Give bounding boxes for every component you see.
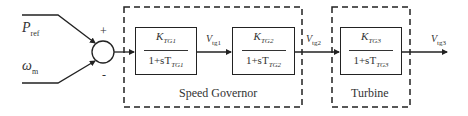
den-subscript: TG3 — [376, 61, 388, 69]
summing-junction — [92, 41, 114, 63]
pref-symbol: P — [22, 20, 31, 35]
den-subscript: TG2 — [269, 61, 281, 69]
den-text: 1+sT — [353, 54, 376, 66]
signal-label-vtg2: Vtg2 — [306, 33, 321, 47]
input-label-pref: Pref — [22, 20, 39, 38]
input-label-omega: ωm — [22, 58, 38, 76]
block-denominator: 1+sTTG2 — [246, 54, 281, 72]
transfer-block-tg1: KTG1 1+sTTG1 — [135, 27, 197, 75]
den-text: 1+sT — [148, 54, 171, 66]
pref-subscript: ref — [31, 29, 40, 38]
gain-symbol: K — [254, 30, 261, 42]
minus-sign: - — [102, 68, 106, 83]
gain-subscript: TG2 — [261, 37, 273, 45]
fraction-bar — [349, 50, 393, 51]
den-subscript: TG1 — [171, 61, 183, 69]
signal-subscript: tg1 — [212, 39, 221, 47]
omega-subscript: m — [32, 67, 38, 76]
group-caption-speed-governor: Speed Governor — [179, 86, 257, 101]
block-numerator: KTG3 — [361, 30, 381, 48]
signal-subscript: tg3 — [437, 39, 446, 47]
group-caption-turbine: Turbine — [351, 86, 389, 101]
signal-label-vtg3: Vtg3 — [431, 33, 446, 47]
gain-subscript: TG3 — [368, 37, 380, 45]
fraction-bar — [144, 50, 188, 51]
den-text: 1+sT — [246, 54, 269, 66]
plus-sign: + — [100, 24, 107, 39]
transfer-block-tg3: KTG3 1+sTTG3 — [340, 27, 402, 75]
block-denominator: 1+sTTG1 — [148, 54, 183, 72]
signal-label-vtg1: Vtg1 — [206, 33, 221, 47]
block-denominator: 1+sTTG3 — [353, 54, 388, 72]
omega-symbol: ω — [22, 58, 32, 73]
transfer-block-tg2: KTG2 1+sTTG2 — [232, 27, 295, 75]
fraction-bar — [242, 50, 286, 51]
block-numerator: KTG2 — [254, 30, 274, 48]
gain-subscript: TG1 — [163, 37, 175, 45]
signal-subscript: tg2 — [312, 39, 321, 47]
block-numerator: KTG1 — [156, 30, 176, 48]
